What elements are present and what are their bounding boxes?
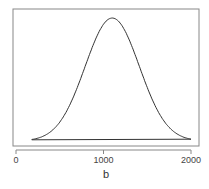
x-tick-label: 2000 [181, 155, 201, 165]
density-plot: 010002000 b [0, 0, 209, 189]
x-tick-label: 0 [13, 155, 18, 165]
x-tick-label: 1000 [93, 155, 113, 165]
x-axis: 010002000 [13, 150, 201, 165]
density-curve [32, 18, 191, 140]
plot-frame [13, 9, 199, 146]
x-axis-label: b [103, 168, 109, 180]
